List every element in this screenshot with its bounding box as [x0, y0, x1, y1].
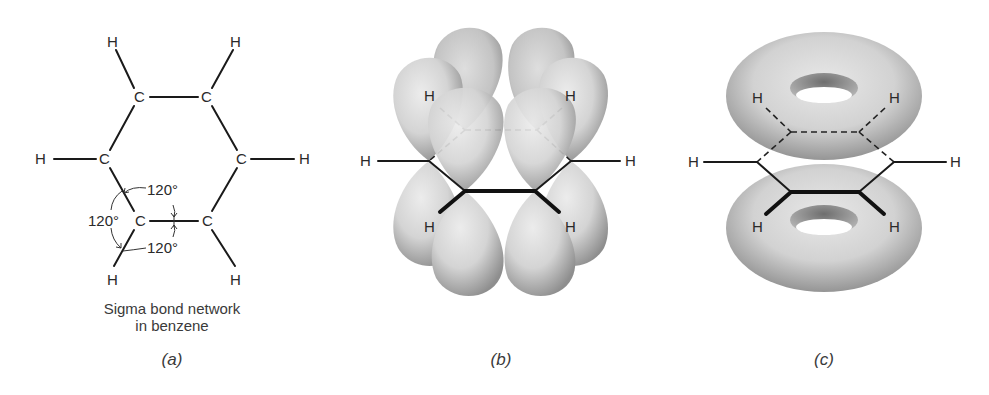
atom-c-left: C	[99, 150, 110, 167]
atom-h-right: H	[625, 152, 636, 169]
atom-h-top-right: H	[230, 33, 241, 50]
panel-label-c: (c)	[814, 350, 834, 369]
atom-h-right: H	[299, 150, 310, 167]
atom-h-back-left: H	[424, 87, 435, 104]
atom-h-front-right: H	[889, 218, 900, 235]
angle-label-lower: 120°	[147, 239, 178, 256]
panel-b-p-orbitals: H H H H H H (b)	[360, 28, 636, 369]
atom-h-left: H	[688, 153, 699, 170]
atom-h-back-right: H	[889, 89, 900, 106]
caption-line-1: Sigma bond network	[104, 300, 241, 317]
panel-c-pi-clouds: H H H H H H (c)	[688, 32, 961, 369]
atom-c-right: C	[236, 150, 247, 167]
atom-h-back-right: H	[565, 87, 576, 104]
angle-label-upper: 120°	[147, 181, 178, 198]
atom-h-front-left: H	[752, 218, 763, 235]
atom-c-bottom-left: C	[135, 212, 146, 229]
angle-label-left: 120°	[88, 212, 119, 229]
atom-c-top-left: C	[134, 88, 145, 105]
atom-h-left: H	[360, 152, 371, 169]
caption-line-2: in benzene	[135, 317, 208, 334]
atom-h-back-left: H	[752, 89, 763, 106]
atom-h-front-right: H	[565, 218, 576, 235]
atom-c-bottom-right: C	[202, 212, 213, 229]
atom-h-front-left: H	[424, 218, 435, 235]
atom-h-right: H	[950, 153, 961, 170]
panel-label-a: (a)	[162, 350, 183, 369]
panel-a-sigma-network: H H C C H C C H C C H H 120° 120° 120° S…	[35, 33, 310, 369]
atom-h-top-left: H	[107, 33, 118, 50]
benzene-bonding-figure: H H C C H C C H C C H H 120° 120° 120° S…	[0, 0, 989, 395]
atom-h-left: H	[35, 150, 46, 167]
atom-h-bottom-left: H	[107, 271, 118, 288]
panel-label-b: (b)	[491, 350, 512, 369]
atom-c-top-right: C	[201, 88, 212, 105]
atom-h-bottom-right: H	[230, 271, 241, 288]
